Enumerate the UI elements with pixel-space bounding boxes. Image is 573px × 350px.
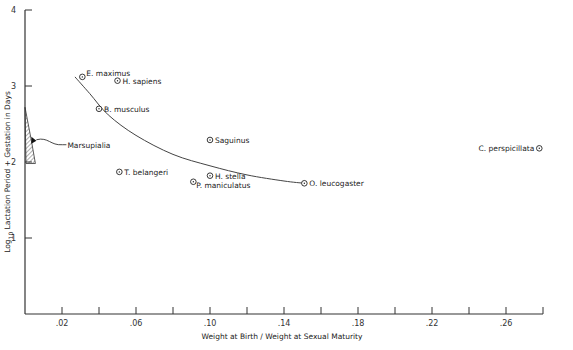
data-point: Saguinus [207, 136, 249, 145]
marsupialia-marker-icon [31, 137, 36, 144]
x-tick-label: .22 [426, 319, 439, 328]
point-label: H. stella [215, 172, 246, 181]
point-label: B. musculus [104, 105, 150, 114]
regression-curve [75, 77, 304, 183]
point-label: O. leucogaster [309, 179, 364, 188]
data-point: P. maniculatus [191, 179, 251, 190]
y-tick-label: 4 [11, 6, 16, 15]
x-tick-label: .10 [204, 319, 217, 328]
x-tick-label: .02 [56, 319, 69, 328]
data-point: O. leucogaster [302, 179, 365, 188]
marsupialia-label: Marsupialia [67, 141, 110, 150]
point-label: Saguinus [215, 136, 249, 145]
y-tick-label: 3 [11, 82, 16, 91]
data-point: H. sapiens [115, 77, 162, 86]
point-label: C. perspicillata [479, 144, 535, 153]
marsupialia-leader-line [36, 139, 66, 145]
point-label: T. belangeri [123, 168, 168, 177]
marsupialia-annotation: Marsupialia [25, 107, 110, 163]
x-tick-label: .18 [352, 319, 365, 328]
data-point: B. musculus [96, 105, 149, 114]
x-tick-label: .14 [278, 319, 291, 328]
point-label: H. sapiens [123, 77, 162, 86]
x-axis-title: Weight at Birth / Weight at Sexual Matur… [202, 332, 364, 341]
data-point: H. stella [207, 172, 245, 181]
data-point: C. perspicillata [479, 144, 543, 153]
data-point: T. belangeri [117, 168, 169, 177]
scatter-chart: 1234.02.06.10.14.18.22.26Weight at Birth… [0, 0, 573, 350]
marsupialia-hatched-region [25, 107, 35, 163]
fit-curve [75, 77, 304, 183]
axes: 1234.02.06.10.14.18.22.26Weight at Birth… [3, 6, 543, 341]
x-tick-label: .26 [500, 319, 513, 328]
y-axis-title: Log10 Lactation Period + Gestation in Da… [3, 91, 14, 253]
x-tick-label: .06 [130, 319, 143, 328]
point-label: P. maniculatus [196, 181, 250, 190]
data-points: E. maximusH. sapiensB. musculusSaguinusT… [80, 69, 543, 190]
